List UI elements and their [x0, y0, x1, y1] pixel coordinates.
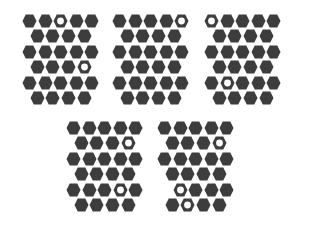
- filled-hexagon-icon: [69, 45, 84, 59]
- filled-hexagon-icon: [165, 136, 180, 150]
- filled-hexagon-icon: [135, 60, 150, 74]
- filled-hexagon-icon: [112, 45, 127, 59]
- filled-hexagon-icon: [112, 76, 127, 90]
- filled-hexagon-icon: [105, 167, 120, 181]
- filled-hexagon-icon: [128, 45, 143, 59]
- filled-hexagon-icon: [204, 45, 219, 59]
- filled-hexagon-icon: [121, 167, 136, 181]
- filled-hexagon-icon: [128, 183, 143, 197]
- filled-hexagon-icon: [212, 198, 227, 212]
- filled-hexagon-icon: [128, 14, 143, 28]
- filled-hexagon-icon: [61, 60, 76, 74]
- filled-hexagon-icon: [219, 121, 234, 135]
- filled-hexagon-icon: [121, 198, 136, 212]
- empty-hexagon-icon: [204, 14, 219, 28]
- filled-hexagon-icon: [97, 183, 112, 197]
- filled-hexagon-icon: [113, 121, 128, 135]
- filled-hexagon-icon: [105, 136, 120, 150]
- filled-hexagon-icon: [74, 198, 89, 212]
- filled-hexagon-icon: [120, 60, 135, 74]
- filled-hexagon-icon: [174, 76, 189, 90]
- filled-hexagon-icon: [89, 136, 104, 150]
- filled-hexagon-icon: [227, 29, 242, 43]
- filled-hexagon-icon: [84, 45, 99, 59]
- filled-hexagon-icon: [143, 76, 158, 90]
- filled-hexagon-icon: [22, 76, 37, 90]
- filled-hexagon-icon: [89, 198, 104, 212]
- filled-hexagon-icon: [227, 60, 242, 74]
- filled-hexagon-icon: [251, 45, 266, 59]
- empty-hexagon-icon: [53, 14, 68, 28]
- filled-hexagon-icon: [66, 183, 81, 197]
- filled-hexagon-icon: [84, 76, 99, 90]
- filled-hexagon-icon: [151, 29, 166, 43]
- filled-hexagon-icon: [212, 91, 227, 105]
- filled-hexagon-icon: [243, 29, 258, 43]
- filled-hexagon-icon: [22, 45, 37, 59]
- filled-hexagon-icon: [112, 14, 127, 28]
- filled-hexagon-icon: [227, 91, 242, 105]
- filled-hexagon-icon: [204, 76, 219, 90]
- filled-hexagon-icon: [84, 14, 99, 28]
- filled-hexagon-icon: [82, 183, 97, 197]
- filled-hexagon-icon: [157, 121, 172, 135]
- filled-hexagon-icon: [173, 121, 188, 135]
- filled-hexagon-icon: [77, 29, 92, 43]
- filled-hexagon-icon: [128, 76, 143, 90]
- filled-hexagon-icon: [204, 121, 219, 135]
- filled-hexagon-icon: [66, 152, 81, 166]
- filled-hexagon-icon: [82, 121, 97, 135]
- filled-hexagon-icon: [188, 183, 203, 197]
- filled-hexagon-icon: [82, 152, 97, 166]
- filled-hexagon-icon: [69, 76, 84, 90]
- filled-hexagon-icon: [159, 76, 174, 90]
- filled-hexagon-icon: [243, 91, 258, 105]
- filled-hexagon-icon: [159, 45, 174, 59]
- empty-hexagon-icon: [121, 136, 136, 150]
- filled-hexagon-icon: [212, 60, 227, 74]
- filled-hexagon-icon: [151, 60, 166, 74]
- empty-hexagon-icon: [174, 14, 189, 28]
- filled-hexagon-icon: [188, 121, 203, 135]
- filled-hexagon-icon: [196, 198, 211, 212]
- filled-hexagon-icon: [120, 91, 135, 105]
- filled-hexagon-icon: [219, 152, 234, 166]
- filled-hexagon-icon: [173, 152, 188, 166]
- filled-hexagon-icon: [61, 91, 76, 105]
- filled-hexagon-icon: [235, 14, 250, 28]
- empty-hexagon-icon: [173, 183, 188, 197]
- filled-hexagon-icon: [157, 152, 172, 166]
- filled-hexagon-icon: [251, 14, 266, 28]
- filled-hexagon-icon: [251, 76, 266, 90]
- empty-hexagon-icon: [113, 183, 128, 197]
- filled-hexagon-icon: [167, 91, 182, 105]
- filled-hexagon-icon: [243, 60, 258, 74]
- filled-hexagon-icon: [165, 198, 180, 212]
- filled-hexagon-icon: [89, 167, 104, 181]
- filled-hexagon-icon: [165, 167, 180, 181]
- filled-hexagon-icon: [97, 152, 112, 166]
- filled-hexagon-icon: [97, 121, 112, 135]
- filled-hexagon-icon: [105, 198, 120, 212]
- filled-hexagon-icon: [219, 183, 234, 197]
- filled-hexagon-icon: [167, 60, 182, 74]
- filled-hexagon-icon: [151, 91, 166, 105]
- filled-hexagon-icon: [74, 136, 89, 150]
- filled-hexagon-icon: [259, 29, 274, 43]
- filled-hexagon-icon: [113, 152, 128, 166]
- empty-hexagon-icon: [212, 136, 227, 150]
- filled-hexagon-icon: [53, 76, 68, 90]
- filled-hexagon-icon: [266, 14, 281, 28]
- filled-hexagon-icon: [77, 91, 92, 105]
- filled-hexagon-icon: [204, 183, 219, 197]
- filled-hexagon-icon: [188, 152, 203, 166]
- filled-hexagon-icon: [204, 152, 219, 166]
- filled-hexagon-icon: [259, 91, 274, 105]
- filled-hexagon-icon: [174, 45, 189, 59]
- filled-hexagon-icon: [180, 136, 195, 150]
- empty-hexagon-icon: [77, 60, 92, 74]
- filled-hexagon-icon: [45, 91, 60, 105]
- filled-hexagon-icon: [143, 14, 158, 28]
- filled-hexagon-icon: [38, 14, 53, 28]
- filled-hexagon-icon: [196, 136, 211, 150]
